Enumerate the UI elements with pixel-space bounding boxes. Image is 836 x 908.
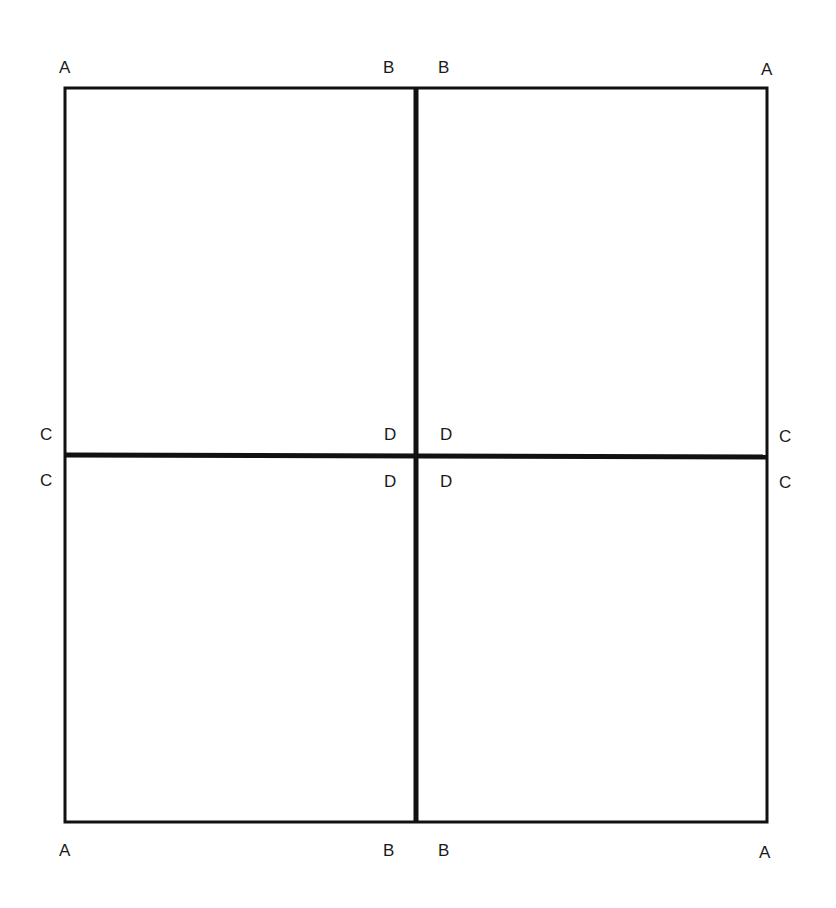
label-top-left: A — [59, 59, 70, 76]
label-top-mid-right: B — [438, 59, 449, 76]
quadrant-diagram — [0, 0, 836, 908]
label-mid-right-upper: C — [779, 428, 791, 445]
label-bottom-right: A — [759, 844, 770, 861]
label-mid-left-upper: C — [40, 426, 52, 443]
horizontal-divider — [65, 455, 767, 457]
label-center-lower-left: D — [384, 473, 396, 490]
label-bottom-mid-left: B — [383, 842, 394, 859]
label-center-upper-left: D — [384, 426, 396, 443]
label-top-mid-left: B — [383, 59, 394, 76]
label-center-upper-right: D — [440, 426, 452, 443]
label-bottom-mid-right: B — [438, 842, 449, 859]
label-bottom-left: A — [59, 842, 70, 859]
label-mid-right-lower: C — [779, 474, 791, 491]
label-center-lower-right: D — [440, 473, 452, 490]
label-top-right: A — [761, 61, 772, 78]
label-mid-left-lower: C — [40, 472, 52, 489]
